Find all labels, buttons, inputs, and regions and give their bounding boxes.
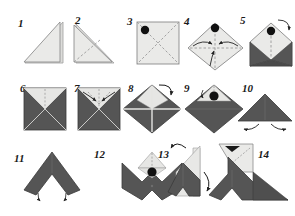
step-4-number: 4 <box>183 15 190 27</box>
step-14-number: 14 <box>258 148 270 160</box>
step-11-number: 11 <box>14 152 24 164</box>
corner-marker-dot <box>267 27 275 35</box>
center-point <box>151 185 153 187</box>
corner-marker-dot <box>147 167 156 176</box>
step-9-number: 9 <box>184 82 190 94</box>
step-6-figure <box>24 88 66 130</box>
origami-instruction-diagram: 1 2 3 4 <box>0 0 295 216</box>
corner-marker-dot <box>209 91 218 100</box>
step-1-number: 1 <box>18 17 24 29</box>
corner-marker-dot <box>211 24 219 32</box>
corner-marker-dot <box>141 26 149 34</box>
step-6: 6 <box>20 82 66 130</box>
step-12-number: 12 <box>94 148 106 160</box>
step-5-number: 5 <box>240 14 246 26</box>
step-13-number: 13 <box>158 148 170 160</box>
step-8-number: 8 <box>128 82 134 94</box>
step-2-number: 2 <box>74 14 81 26</box>
step-7: 7 <box>74 82 120 130</box>
step-3-number: 3 <box>126 15 133 27</box>
step-10-number: 10 <box>242 82 254 94</box>
step-3-figure <box>137 22 179 64</box>
step-7-figure <box>78 88 120 130</box>
